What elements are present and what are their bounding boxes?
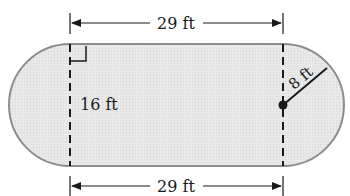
bottom-length-label: 29 ft (157, 177, 195, 196)
height-label: 16 ft (80, 95, 118, 114)
top-length-label: 29 ft (157, 14, 195, 33)
stadium-diagram: 8 ft 16 ft 29 ft 29 ft (0, 0, 350, 196)
center-point (279, 101, 288, 110)
stadium-shape (9, 44, 344, 166)
